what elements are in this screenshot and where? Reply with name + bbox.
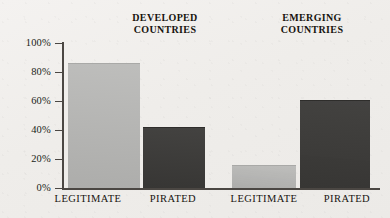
bar-chart-figure: DEVELOPED COUNTRIES EMERGING COUNTRIES 1…	[0, 0, 390, 218]
category-label-emerging-pirated: PIRATED	[297, 193, 390, 204]
y-tick-label-40: 40%	[7, 124, 51, 135]
y-tick-label-0: 0%	[7, 182, 51, 193]
bar-emerging-pirated	[300, 100, 370, 188]
bar-emerging-legitimate	[232, 165, 296, 188]
category-label-developed-pirated: PIRATED	[123, 193, 223, 204]
y-tick-label-100: 100%	[7, 37, 51, 48]
bar-developed-pirated	[143, 127, 205, 188]
group-title-developed: DEVELOPED COUNTRIES	[105, 12, 225, 35]
x-axis-line	[62, 188, 380, 190]
y-tick-label-80: 80%	[7, 66, 51, 77]
bar-developed-legitimate	[68, 63, 140, 188]
y-tick-label-20: 20%	[7, 153, 51, 164]
plot-area	[62, 43, 380, 188]
group-title-emerging: EMERGING COUNTRIES	[252, 12, 372, 35]
y-tick-label-60: 60%	[7, 95, 51, 106]
